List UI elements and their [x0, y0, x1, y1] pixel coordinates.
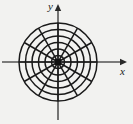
- polar-grid-figure: y x: [0, 0, 133, 124]
- origin-dot-icon: [55, 59, 61, 65]
- y-axis-label: y: [48, 1, 53, 12]
- origin-dot-icon: [55, 59, 61, 65]
- polar-grid-canvas: [0, 0, 133, 124]
- x-axis-label: x: [120, 66, 125, 77]
